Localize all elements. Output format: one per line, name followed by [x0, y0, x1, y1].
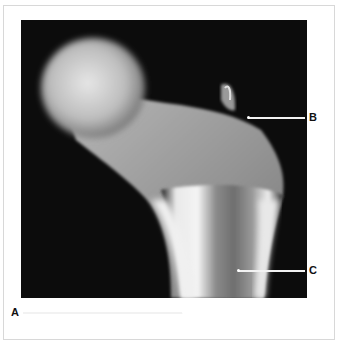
leader-point-c	[237, 269, 240, 272]
xray-image	[21, 20, 307, 298]
leader-point-b	[247, 116, 250, 119]
femur-radiograph-graphic	[21, 20, 307, 298]
leader-point-a	[182, 311, 185, 314]
label-a: A	[11, 307, 19, 318]
leader-line-c	[238, 270, 305, 272]
label-c: C	[309, 265, 317, 276]
leader-line-b	[248, 117, 305, 119]
leader-line-a	[23, 312, 183, 314]
label-b: B	[309, 112, 317, 123]
